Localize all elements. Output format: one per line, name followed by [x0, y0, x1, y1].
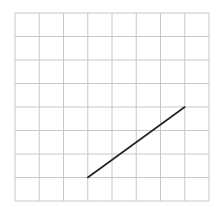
grid-lines	[15, 13, 209, 201]
grid-diagram	[0, 0, 221, 207]
